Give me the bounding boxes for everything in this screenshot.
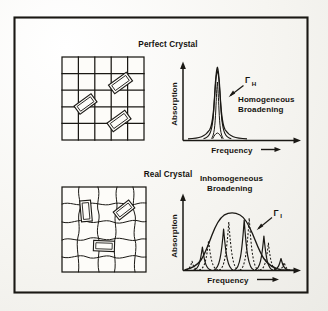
peaks-inhomogeneous — [185, 213, 295, 270]
caption-homogeneous-line2: Broadening — [238, 105, 283, 114]
gamma-i-subscript: I — [280, 212, 282, 219]
gamma-h-subscript: H — [252, 80, 257, 87]
xlabel-frequency-real: Frequency — [207, 276, 249, 285]
ylabel-absorption-real: Absorption — [170, 214, 179, 258]
xlabel-frequency-perfect: Frequency — [211, 146, 253, 155]
annotation-gamma-h: Γ H — [245, 75, 257, 87]
caption-homogeneous-line1: Homogeneous — [238, 95, 295, 104]
caption-inhomogeneous-line1: Inhomogeneous — [200, 174, 264, 183]
panel-title-perfect: Perfect Crystal — [138, 40, 197, 49]
annotation-gamma-i: Γ I — [274, 208, 283, 220]
caption-inhomogeneous-line2: Broadening — [207, 184, 252, 193]
figure-border — [15, 18, 308, 293]
panel-title-real: Real Crystal — [144, 170, 193, 179]
gamma-i-symbol: Γ — [274, 208, 279, 218]
lattice-real — [62, 187, 146, 272]
lattice-perfect — [62, 57, 144, 140]
gamma-h-symbol: Γ — [245, 75, 250, 85]
xlabel-arrow-perfect — [261, 147, 281, 152]
xlabel-arrow-real — [257, 277, 279, 282]
ylabel-absorption-perfect: Absorption — [170, 82, 179, 126]
figure-canvas: Perfect Crystal — [0, 0, 328, 311]
annotation-leader-gamma-i — [257, 218, 272, 231]
figure-artwork: Perfect Crystal — [0, 0, 328, 311]
chart-axes-real — [180, 194, 301, 274]
